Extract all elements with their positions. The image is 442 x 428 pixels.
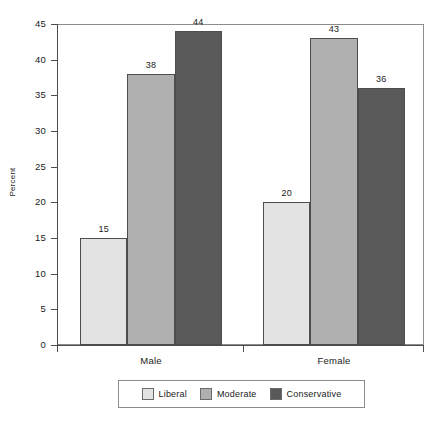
bar-value-label-female-moderate: 43: [314, 25, 354, 34]
bar-male-moderate: [127, 74, 174, 345]
y-axis-tick: [51, 24, 57, 25]
bar-value-label-male-liberal: 15: [84, 225, 124, 234]
y-axis-tick: [51, 167, 57, 168]
legend-item-conservative: Conservative: [270, 388, 342, 400]
bar-value-label-male-conservative: 44: [178, 18, 218, 27]
x-group-label-male: Male: [91, 355, 211, 366]
y-axis-tick: [51, 309, 57, 310]
y-axis-tick-label: 25: [16, 162, 46, 172]
x-group-label-female: Female: [274, 355, 394, 366]
x-axis-tick-left: [57, 346, 58, 352]
y-axis-tick: [51, 274, 57, 275]
legend-label-moderate: Moderate: [217, 390, 257, 399]
bar-male-liberal: [80, 238, 127, 345]
x-axis-tick-middle: [243, 346, 244, 352]
legend-swatch-liberal: [142, 388, 154, 400]
y-axis-tick: [51, 95, 57, 96]
bar-chart: Percent 051015202530354045 153844204336 …: [0, 0, 442, 428]
chart-legend: Liberal Moderate Conservative: [118, 380, 365, 408]
legend-swatch-conservative: [270, 388, 282, 400]
y-axis-tick-label: 0: [16, 340, 46, 350]
y-axis-tick-label: 45: [16, 19, 46, 29]
bar-female-moderate: [310, 38, 357, 345]
bar-female-conservative: [358, 88, 405, 345]
bar-female-liberal: [263, 202, 310, 345]
y-axis-tick-label: 15: [16, 233, 46, 243]
y-axis-tick: [51, 202, 57, 203]
legend-label-conservative: Conservative: [287, 390, 342, 399]
legend-swatch-moderate: [200, 388, 212, 400]
x-axis-tick-right: [423, 346, 424, 352]
x-axis-line: [57, 345, 424, 346]
bar-value-label-male-moderate: 38: [131, 61, 171, 70]
y-axis-tick-label: 40: [16, 55, 46, 65]
y-axis-line: [57, 24, 58, 346]
y-axis-tick-label: 30: [16, 126, 46, 136]
y-axis-tick: [51, 238, 57, 239]
y-axis-tick: [51, 131, 57, 132]
y-axis-tick-label: 10: [16, 269, 46, 279]
legend-label-liberal: Liberal: [159, 390, 187, 399]
legend-item-moderate: Moderate: [200, 388, 257, 400]
y-axis-tick: [51, 60, 57, 61]
y-axis-tick-label: 5: [16, 304, 46, 314]
bar-value-label-female-conservative: 36: [361, 75, 401, 84]
bar-value-label-female-liberal: 20: [267, 189, 307, 198]
y-axis-tick-label: 35: [16, 90, 46, 100]
legend-item-liberal: Liberal: [142, 388, 187, 400]
bar-male-conservative: [175, 31, 222, 345]
y-axis-tick-label: 20: [16, 197, 46, 207]
